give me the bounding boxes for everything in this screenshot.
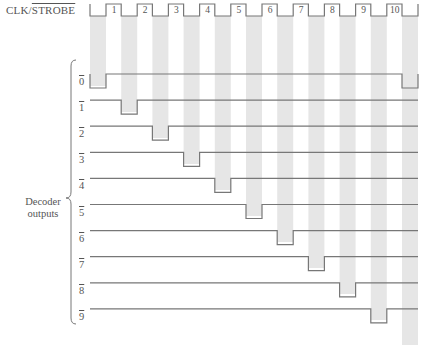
strobe-shade-bars bbox=[90, 16, 418, 345]
clock-pulse-number: 8 bbox=[324, 5, 340, 15]
clock-strobe-label: CLK/STROBE bbox=[6, 4, 75, 16]
strobe-shade-bar bbox=[121, 16, 137, 112]
timing-diagram bbox=[0, 0, 439, 345]
decoder-output-line bbox=[90, 309, 418, 323]
clock-pulse-number: 1 bbox=[106, 5, 122, 15]
decoder-output-label: 2 bbox=[79, 128, 84, 139]
decoder-output-line bbox=[90, 231, 418, 245]
decoder-output-line bbox=[90, 257, 418, 271]
decoder-output-label: 4 bbox=[79, 180, 84, 191]
decoder-output-label: 7 bbox=[79, 259, 84, 270]
decoder-output-line bbox=[90, 283, 418, 297]
decoder-output-label: 0 bbox=[79, 76, 84, 87]
clock-pulse-number: 3 bbox=[168, 5, 184, 15]
clock-pulse-number: 10 bbox=[387, 5, 403, 15]
decoder-output-label: 3 bbox=[79, 154, 84, 165]
clock-pulse-number: 4 bbox=[200, 5, 216, 15]
strobe-shade-bar bbox=[152, 16, 168, 138]
decoder-output-label: 1 bbox=[79, 102, 84, 113]
strobe-shade-bar bbox=[340, 16, 356, 294]
decoder-brace bbox=[66, 60, 76, 324]
clock-pulse-number: 5 bbox=[231, 5, 247, 15]
strobe-shade-bar bbox=[246, 16, 262, 216]
strobe-shade-bar bbox=[215, 16, 231, 190]
decoder-output-label: 9 bbox=[79, 311, 84, 322]
clock-pulse-number: 2 bbox=[137, 5, 153, 15]
strobe-shade-bar bbox=[402, 16, 418, 345]
strobe-shade-bar bbox=[90, 16, 106, 86]
clock-pulse-number: 9 bbox=[356, 5, 372, 15]
strobe-shade-bar bbox=[184, 16, 200, 164]
decoder-output-label: 5 bbox=[79, 207, 84, 218]
strobe-shade-bar bbox=[371, 16, 387, 320]
clock-pulse-number: 7 bbox=[293, 5, 309, 15]
decoder-output-label: 8 bbox=[79, 285, 84, 296]
decoder-output-label: 6 bbox=[79, 233, 84, 244]
strobe-shade-bar bbox=[277, 16, 293, 242]
clock-pulse-number: 6 bbox=[262, 5, 278, 15]
decoder-outputs-label: Decoder outputs bbox=[18, 196, 68, 220]
